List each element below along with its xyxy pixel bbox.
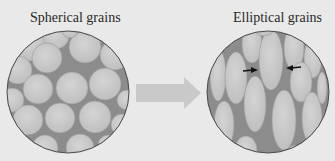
elliptical-grains-panel: [207, 20, 329, 161]
transition-arrow-icon: [136, 77, 201, 109]
spherical-grains-panel: [0, 22, 137, 161]
grain-diagram: [0, 0, 335, 161]
